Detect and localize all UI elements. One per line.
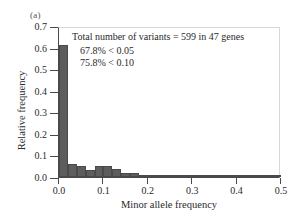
x-axis-label: Minor allele frequency — [58, 199, 280, 210]
histogram-bar — [210, 175, 219, 177]
y-tick: 0.5 — [50, 70, 58, 71]
histogram-bar — [121, 173, 130, 177]
x-tick-label: 0.3 — [186, 185, 199, 196]
annotation-percentages: 67.8% < 0.05 75.8% < 0.10 — [80, 45, 134, 68]
histogram-bar — [263, 175, 272, 177]
x-tick: 0.3 — [191, 178, 192, 184]
y-tick-label: 0.5 — [35, 64, 48, 75]
y-tick-label: 0.4 — [35, 86, 48, 97]
histogram-bar — [130, 173, 139, 177]
histogram-bar — [272, 175, 281, 177]
annotation-line-1: 67.8% < 0.05 — [80, 45, 134, 57]
histogram-bar — [139, 175, 148, 177]
y-axis-label: Relative frequency — [16, 41, 27, 181]
histogram-bar — [148, 175, 157, 177]
histogram-bar — [174, 175, 183, 177]
histogram-bar — [183, 175, 192, 177]
x-tick: 0.1 — [102, 178, 103, 184]
histogram-bar — [103, 166, 112, 177]
y-tick: 0.2 — [50, 135, 58, 136]
histogram-bar — [237, 175, 246, 177]
y-tick-label: 0.6 — [35, 43, 48, 54]
histogram-bar — [228, 175, 237, 177]
histogram-bar — [219, 175, 228, 177]
x-tick-label: 0.1 — [97, 185, 110, 196]
histogram-bar — [77, 166, 86, 177]
histogram-bar — [245, 175, 254, 177]
histogram-bar — [192, 175, 201, 177]
x-tick-label: 0.2 — [142, 185, 155, 196]
y-tick: 0.4 — [50, 92, 58, 93]
histogram-bar — [157, 175, 166, 177]
y-tick: 0.7 — [50, 27, 58, 28]
histogram-bar — [112, 169, 121, 177]
histogram-bar — [68, 164, 77, 177]
histogram-bar — [166, 175, 175, 177]
x-tick: 0.5 — [280, 178, 281, 184]
x-tick-label: 0.4 — [230, 185, 243, 196]
x-tick: 0.0 — [58, 178, 59, 184]
x-tick-label: 0.0 — [53, 185, 66, 196]
x-tick: 0.2 — [147, 178, 148, 184]
y-tick-label: 0.2 — [35, 129, 48, 140]
histogram-bar — [254, 175, 263, 177]
y-tick-label: 0.3 — [35, 107, 48, 118]
y-tick-label: 0.7 — [35, 21, 48, 32]
histogram-bar — [59, 45, 68, 177]
y-tick: 0.3 — [50, 113, 58, 114]
x-tick: 0.4 — [236, 178, 237, 184]
panel-label: (a) — [30, 10, 41, 20]
x-tick-label: 0.5 — [275, 185, 288, 196]
y-tick: 0.0 — [50, 178, 58, 179]
histogram-bar — [95, 166, 104, 177]
y-tick-label: 0.0 — [35, 172, 48, 183]
histogram-bar — [86, 170, 95, 177]
y-tick: 0.1 — [50, 156, 58, 157]
annotation-total-variants: Total number of variants = 599 in 47 gen… — [72, 31, 244, 42]
histogram-bar — [201, 175, 210, 177]
figure-panel: (a) Relative frequency Minor allele freq… — [0, 0, 291, 222]
y-tick-label: 0.1 — [35, 150, 48, 161]
y-tick: 0.6 — [50, 49, 58, 50]
annotation-line-2: 75.8% < 0.10 — [80, 57, 134, 69]
